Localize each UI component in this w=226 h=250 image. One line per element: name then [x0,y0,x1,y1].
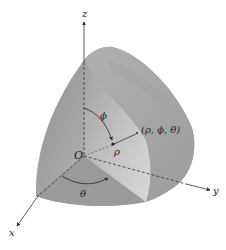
z-axis-label: z [81,8,88,19]
phi-label: ϕ [100,110,107,121]
spherical-coordinates-figure: z y x O ϕ ρ (ρ, ϕ, θ) θ [0,0,226,250]
point-marker-surface [136,132,138,134]
x-axis-label: x [9,227,15,238]
rho-label: ρ [113,146,120,157]
point-coordinates-label: (ρ, ϕ, θ) [141,124,180,135]
y-axis-label: y [212,185,219,196]
origin-label: O [74,149,83,162]
theta-label: θ [80,188,86,199]
